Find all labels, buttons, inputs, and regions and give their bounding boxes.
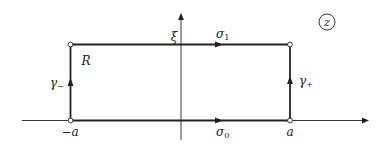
arrow-right-icon — [215, 42, 223, 48]
contour-diagram: z ξ R σ1 σ0 γ− γ+ −a a — [0, 0, 387, 146]
plane-label: z — [323, 16, 330, 29]
gamma-minus-label: γ− — [50, 76, 64, 91]
corner-point — [288, 42, 293, 47]
minus-a-label: −a — [61, 125, 78, 139]
xi-label: ξ — [171, 30, 179, 44]
sigma0-label: σ0 — [216, 125, 229, 140]
corner-point — [288, 118, 293, 123]
corner-point — [68, 42, 73, 47]
arrow-up-icon — [287, 76, 293, 84]
corner-point — [68, 118, 73, 123]
region-label: R — [80, 54, 90, 68]
arrow-up-icon — [68, 78, 74, 86]
sigma1-label: σ1 — [216, 27, 229, 42]
arrow-right-icon — [215, 118, 223, 124]
a-label: a — [286, 125, 293, 139]
gamma-plus-label: γ+ — [299, 74, 313, 89]
